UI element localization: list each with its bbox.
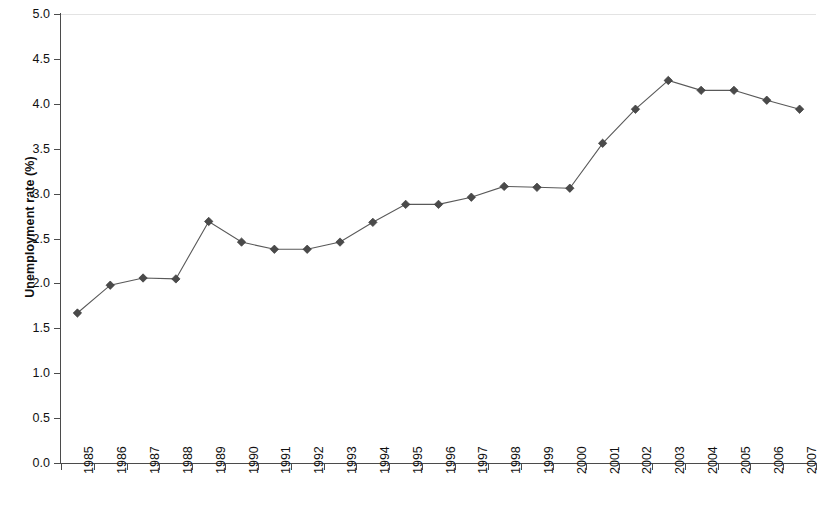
x-tick-mark [685,463,686,470]
y-tick-mark [54,239,61,240]
x-tick-mark [586,463,587,470]
x-tick-mark [94,463,95,470]
data-point-marker [730,86,738,94]
x-tick-mark [324,463,325,470]
y-tick-mark [54,373,61,374]
x-tick-mark [553,463,554,470]
y-tick-mark [54,194,61,195]
y-tick-label: 4.5 [0,53,50,66]
y-tick-label: 1.0 [0,367,50,380]
unemployment-rate-line [77,80,799,313]
series-plot [0,0,821,517]
y-tick-mark [54,149,61,150]
x-tick-mark [61,463,62,470]
top-gridline [61,14,816,15]
x-tick-mark [192,463,193,470]
data-point-marker [664,76,672,84]
y-tick-label: 5.0 [0,8,50,21]
data-point-marker [401,200,409,208]
x-tick-mark [455,463,456,470]
y-tick-mark [54,283,61,284]
data-point-marker [566,184,574,192]
y-tick-mark [54,59,61,60]
x-tick-mark [816,463,817,470]
y-tick-label: 4.0 [0,98,50,111]
y-tick-label: 0.5 [0,412,50,425]
y-tick-label: 3.5 [0,143,50,156]
data-point-marker [795,105,803,113]
x-axis-line [60,463,817,464]
x-tick-mark [521,463,522,470]
x-tick-mark [225,463,226,470]
data-point-marker [172,275,180,283]
y-tick-mark [54,463,61,464]
data-point-marker [763,96,771,104]
data-point-marker [434,200,442,208]
x-tick-mark [783,463,784,470]
x-tick-mark [652,463,653,470]
x-tick-mark [619,463,620,470]
y-tick-label: 2.0 [0,277,50,290]
data-point-marker [106,281,114,289]
data-point-marker [467,193,475,201]
data-point-marker [303,245,311,253]
x-tick-mark [159,463,160,470]
y-tick-mark [54,14,61,15]
x-tick-mark [356,463,357,470]
y-tick-mark [54,104,61,105]
x-tick-mark [389,463,390,470]
data-point-marker [205,217,213,225]
data-point-marker [270,245,278,253]
y-tick-label: 3.0 [0,188,50,201]
unemployment-rate-markers [73,76,804,317]
x-tick-mark [291,463,292,470]
x-tick-mark [750,463,751,470]
data-point-marker [500,182,508,190]
y-tick-label: 2.5 [0,233,50,246]
x-tick-mark [422,463,423,470]
unemployment-rate-line-chart: Unemployment rate (%) 5.04.54.03.53.02.5… [0,0,821,517]
data-point-marker [369,218,377,226]
data-point-marker [697,86,705,94]
x-tick-mark [127,463,128,470]
y-tick-mark [54,418,61,419]
data-point-marker [533,183,541,191]
data-point-marker [336,238,344,246]
y-tick-label: 1.5 [0,322,50,335]
data-point-marker [631,105,639,113]
y-tick-label: 0.0 [0,457,50,470]
x-tick-mark [488,463,489,470]
y-tick-mark [54,328,61,329]
x-tick-mark [258,463,259,470]
data-point-marker [73,309,81,317]
data-point-marker [237,238,245,246]
data-point-marker [598,139,606,147]
x-tick-mark [718,463,719,470]
data-point-marker [139,274,147,282]
